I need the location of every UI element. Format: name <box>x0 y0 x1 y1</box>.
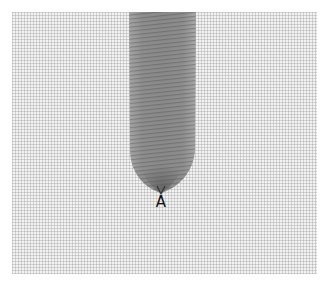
point-label-a: A <box>153 193 169 211</box>
figure-canvas: A <box>0 0 327 286</box>
tapered-gray-strip <box>0 0 327 286</box>
